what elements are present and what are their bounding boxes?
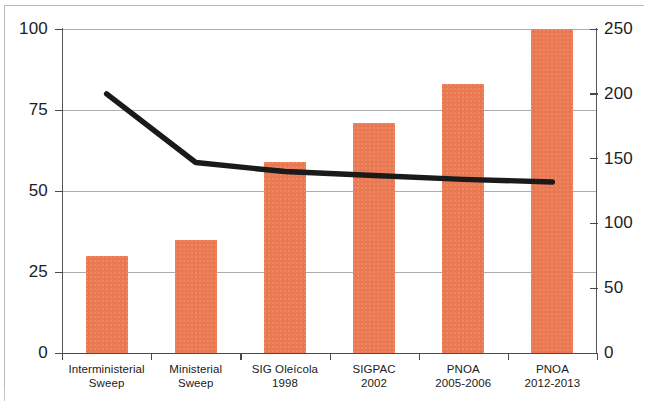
y-axis-right-tick-label: 150 bbox=[604, 150, 633, 167]
y-axis-left-tick-label: 0 bbox=[0, 344, 48, 361]
y-axis-left-tick-label: 50 bbox=[0, 182, 48, 199]
chart-page: 1007550250 250200150100500 Interminister… bbox=[0, 0, 648, 408]
y-axis-right-tick bbox=[590, 223, 598, 224]
x-axis-category-label-line1: PNOA bbox=[500, 363, 605, 377]
y-axis-right-tick-label: 200 bbox=[604, 85, 633, 102]
y-axis-right-tick-label: 250 bbox=[604, 20, 633, 37]
y-axis-left-tick bbox=[55, 272, 63, 273]
y-axis-left-tick bbox=[55, 191, 63, 192]
x-axis-category-label-line2: 2012-2013 bbox=[500, 377, 605, 391]
line-series-path bbox=[107, 94, 553, 182]
x-axis-tick bbox=[62, 353, 63, 360]
y-axis-right-tick bbox=[590, 29, 598, 30]
x-axis-tick bbox=[508, 353, 509, 360]
y-axis-right-tick bbox=[590, 288, 598, 289]
y-axis-right-tick-label: 50 bbox=[604, 279, 623, 296]
x-axis-tick bbox=[597, 353, 598, 360]
y-axis-left-tick-label: 100 bbox=[0, 20, 48, 37]
y-axis-left-tick bbox=[55, 29, 63, 30]
x-axis-category-label: PNOA2012-2013 bbox=[500, 363, 605, 390]
y-axis-left-tick-label: 25 bbox=[0, 263, 48, 280]
line-series bbox=[0, 0, 648, 408]
y-axis-right-tick bbox=[590, 93, 598, 94]
x-axis-tick bbox=[240, 353, 241, 360]
y-axis-right-tick bbox=[590, 158, 598, 159]
x-axis-tick bbox=[419, 353, 420, 360]
y-axis-left-tick-label: 75 bbox=[0, 101, 48, 118]
x-axis-tick bbox=[330, 353, 331, 360]
x-axis-tick bbox=[151, 353, 152, 360]
y-axis-right-tick-label: 0 bbox=[604, 344, 614, 361]
y-axis-right bbox=[596, 28, 597, 354]
y-axis-left-tick bbox=[55, 110, 63, 111]
y-axis-right-tick-label: 100 bbox=[604, 214, 633, 231]
